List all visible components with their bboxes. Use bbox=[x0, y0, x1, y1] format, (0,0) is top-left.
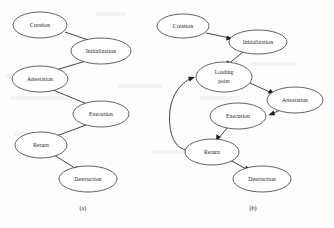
b-node-destruction[interactable]: Destruction bbox=[233, 166, 291, 192]
b-edge-return-loadingpoint bbox=[170, 78, 192, 150]
a-node-destruction[interactable]: Destruction bbox=[59, 166, 117, 192]
a-node-return[interactable]: Return bbox=[15, 132, 67, 158]
b-node-return[interactable]: Return bbox=[185, 139, 239, 165]
b-node-loadingpoint-label-line1: Loading bbox=[215, 69, 234, 75]
b-node-creation[interactable]: Creation bbox=[157, 14, 209, 38]
figure-container: Creation Initialization Attestation Exec… bbox=[0, 0, 334, 228]
a-node-execution-label: Execution bbox=[89, 111, 113, 117]
b-node-destruction-label: Destruction bbox=[248, 176, 276, 182]
a-node-destruction-label: Destruction bbox=[74, 176, 102, 182]
a-node-creation[interactable]: Creation bbox=[13, 12, 67, 38]
diagram-b-caption: (b) bbox=[249, 204, 256, 212]
a-node-creation-label: Creation bbox=[30, 22, 50, 28]
b-arrowhead-loadingpoint-feedback bbox=[188, 77, 195, 82]
a-node-execution[interactable]: Execution bbox=[73, 101, 129, 127]
b-edge-creation-initialization bbox=[206, 33, 230, 38]
b-node-loadingpoint-shape[interactable] bbox=[196, 62, 252, 92]
diagram-a: Creation Initialization Attestation Exec… bbox=[12, 12, 131, 212]
a-node-attestation-label: Attestation bbox=[27, 76, 53, 82]
b-arrowhead-execution bbox=[268, 111, 275, 116]
lifecycle-diagrams: Creation Initialization Attestation Exec… bbox=[0, 0, 334, 228]
b-node-attestation-label: Attestation bbox=[282, 97, 308, 103]
a-node-return-label: Return bbox=[33, 142, 49, 148]
a-node-initialization[interactable]: Initialization bbox=[71, 38, 131, 64]
a-node-initialization-label: Initialization bbox=[86, 48, 117, 54]
diagram-b: Creation Initialization Loading point At… bbox=[157, 14, 323, 212]
b-node-execution-label: Execution bbox=[226, 113, 250, 119]
b-node-initialization-label: Initialization bbox=[243, 39, 274, 45]
b-node-creation-label: Creation bbox=[173, 23, 193, 29]
b-edge-loadingpoint-attestation bbox=[250, 83, 272, 93]
b-node-attestation[interactable]: Attestation bbox=[267, 87, 323, 113]
b-node-loadingpoint-label-line2: point bbox=[218, 78, 230, 84]
b-node-initialization[interactable]: Initialization bbox=[229, 30, 287, 54]
b-node-execution[interactable]: Execution bbox=[210, 103, 266, 129]
b-node-loadingpoint[interactable]: Loading point bbox=[196, 62, 252, 92]
diagram-a-caption: (a) bbox=[80, 204, 87, 212]
b-node-return-label: Return bbox=[204, 149, 220, 155]
a-node-attestation[interactable]: Attestation bbox=[12, 66, 68, 92]
